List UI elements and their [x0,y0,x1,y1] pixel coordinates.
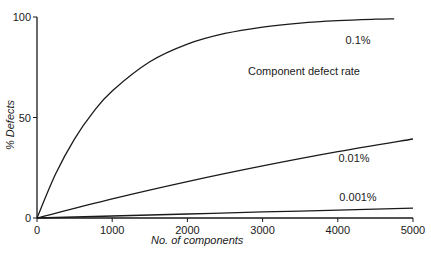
series-line-1 [37,19,394,218]
x-tick-label: 4000 [326,224,350,236]
x-tick-label: 5000 [401,224,425,236]
series-line-2 [37,139,413,218]
y-tick-label: 100 [13,11,31,23]
x-axis-title: No. of components [151,234,244,246]
labels-group: 0.1%0.01%0.001% [338,34,376,203]
series-label: 0.001% [339,191,377,203]
y-tick-label: 0 [25,212,31,224]
defect-rate-chart: 010002000300040005000050100 0.1%0.01%0.0… [0,0,431,254]
y-tick-label: 50 [19,112,31,124]
x-tick-label: 0 [34,224,40,236]
series-label: 0.01% [338,152,369,164]
y-axis-title: % Defects [4,99,16,150]
series-group [37,19,413,218]
series-line-3 [37,208,413,218]
x-tick-label: 1000 [100,224,124,236]
series-label: 0.1% [345,34,370,46]
x-tick-label: 3000 [250,224,274,236]
legend-title: Component defect rate [248,65,360,77]
